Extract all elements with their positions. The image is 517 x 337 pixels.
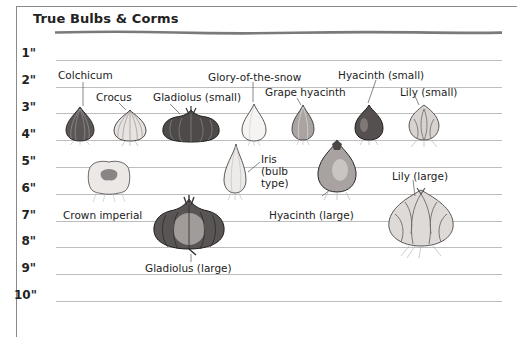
label-grape-hyacinth: Grape hyacinth	[265, 86, 346, 98]
label-iris-line-3: type)	[261, 177, 289, 189]
label-gladiolus-small: Gladiolus (small)	[153, 91, 241, 103]
label-gladiolus-large: Gladiolus (large)	[145, 262, 232, 274]
label-lily-large: Lily (large)	[392, 170, 448, 182]
label-hyacinth-large: Hyacinth (large)	[269, 209, 354, 221]
label-iris-line-2: (bulb	[261, 165, 289, 177]
label-crown-imperial: Crown imperial	[63, 209, 142, 221]
label-colchicum: Colchicum	[58, 69, 113, 81]
label-iris-bulb-type: Iris (bulb type)	[261, 153, 289, 189]
label-iris-line-1: Iris	[261, 153, 289, 165]
label-glory-of-the-snow: Glory-of-the-snow	[208, 71, 301, 83]
label-lily-small: Lily (small)	[400, 86, 457, 98]
label-crocus: Crocus	[96, 91, 132, 103]
label-hyacinth-small: Hyacinth (small)	[338, 69, 424, 81]
